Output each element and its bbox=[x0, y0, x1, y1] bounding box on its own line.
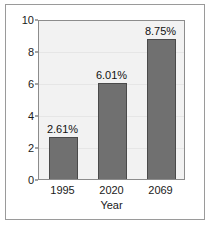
bar-value-label: 6.01% bbox=[96, 70, 127, 81]
bar-value-label: 2.61% bbox=[47, 124, 78, 135]
y-axis-tick-label: 8 bbox=[28, 47, 34, 58]
y-axis-tick-label: 4 bbox=[28, 111, 34, 122]
y-axis-tick-label: 0 bbox=[28, 175, 34, 186]
bar bbox=[98, 83, 127, 179]
x-axis-tick-label: 1995 bbox=[50, 185, 74, 196]
y-axis-tick-mark bbox=[35, 148, 38, 149]
y-axis-tick-mark bbox=[35, 52, 38, 53]
y-axis-tick-label: 2 bbox=[28, 143, 34, 154]
y-axis-tick-mark bbox=[35, 116, 38, 117]
plot-area bbox=[38, 20, 185, 180]
bar bbox=[147, 39, 176, 179]
bar-chart-figure: 0246810 199520202069 2.61%6.01%8.75% Yea… bbox=[0, 0, 210, 226]
gridline bbox=[39, 20, 184, 21]
x-axis-title: Year bbox=[100, 200, 122, 211]
y-axis-tick-mark bbox=[35, 20, 38, 21]
x-axis-tick-label: 2020 bbox=[99, 185, 123, 196]
y-axis-tick-label: 10 bbox=[22, 15, 34, 26]
x-axis-tick-label: 2069 bbox=[148, 185, 172, 196]
bar bbox=[49, 137, 78, 179]
bar-value-label: 8.75% bbox=[145, 26, 176, 37]
y-axis-tick-label: 6 bbox=[28, 79, 34, 90]
y-axis-tick-mark bbox=[35, 84, 38, 85]
y-axis-tick-mark bbox=[35, 180, 38, 181]
plot-wrapper: 0246810 199520202069 2.61%6.01%8.75% Yea… bbox=[38, 20, 185, 180]
